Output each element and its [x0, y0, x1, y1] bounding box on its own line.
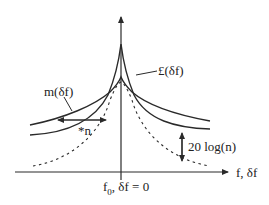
- origin-label-rest: , δf = 0: [112, 179, 149, 194]
- level-offset-label: 20 log(n): [188, 140, 236, 153]
- m-df-leader-line: [64, 97, 72, 111]
- phase-noise-diagram: £(δf) m(δf) *n 20 log(n) f, δf f0, δf = …: [0, 0, 269, 205]
- origin-label: f0, δf = 0: [103, 180, 149, 197]
- width-scale-label: *n: [78, 124, 91, 137]
- x-axis-label: f, δf: [236, 166, 257, 179]
- l-df-leader-line: [136, 71, 157, 75]
- diagram-graphic: [0, 0, 269, 205]
- l-df-label: £(δf): [158, 64, 184, 77]
- m-df-label: m(δf): [44, 85, 73, 98]
